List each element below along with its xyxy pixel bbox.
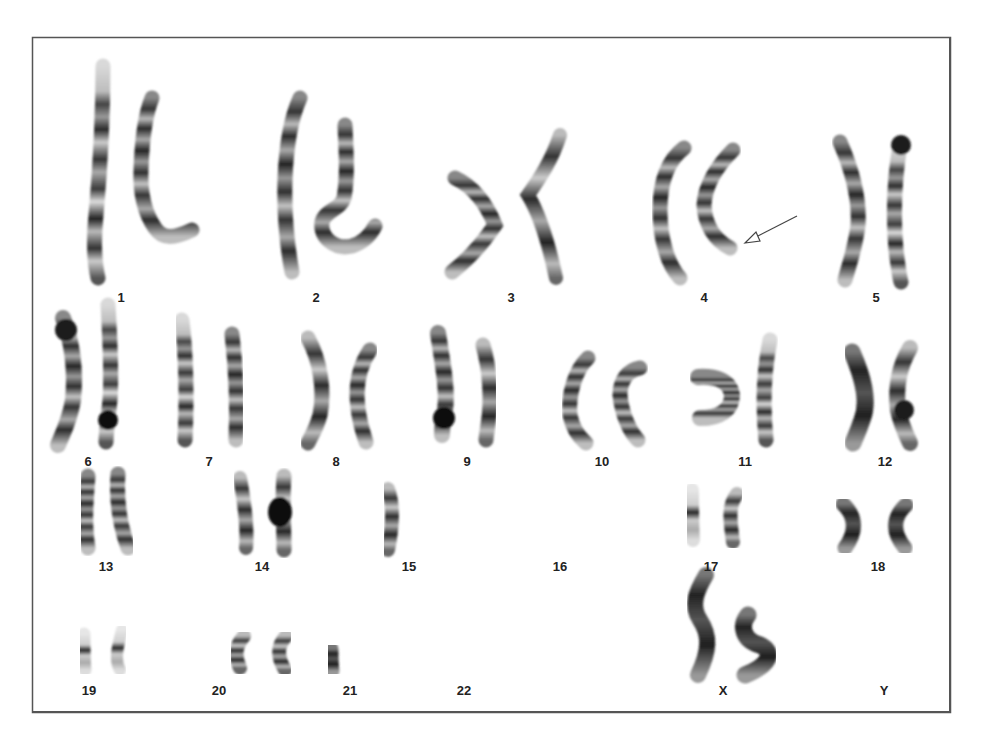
chromosome-pair-9 [433, 333, 490, 440]
chromosome-pair-10 [570, 358, 640, 443]
chromosome-pair-14 [240, 476, 292, 550]
label-chr-x: X [719, 683, 728, 698]
label-chr-7: 7 [205, 454, 212, 469]
chromosome-pair-x [695, 575, 768, 675]
chromosome-pair-4 [660, 148, 733, 278]
label-chr-20: 20 [212, 683, 226, 698]
chromosome-pair-6 [55, 305, 118, 445]
label-chr-18: 18 [871, 559, 885, 574]
label-chr-19: 19 [82, 683, 96, 698]
chromosome-pair-11 [698, 340, 770, 440]
label-chr-1: 1 [117, 290, 124, 305]
label-chr-16: 16 [553, 559, 567, 574]
chromosome-pair-2 [285, 98, 375, 272]
label-chr-10: 10 [595, 454, 609, 469]
chromosome-pair-13 [86, 474, 128, 548]
chromosome-pair-19 [84, 630, 122, 670]
chromosome-pair-8 [308, 338, 370, 443]
chromosome-pair-3 [452, 135, 560, 278]
chromosome-pair-22 [451, 638, 478, 672]
chromosome-pair-17 [692, 490, 737, 542]
label-chr-5: 5 [872, 290, 879, 305]
label-chr-9: 9 [463, 454, 470, 469]
chromosome-pair-18 [843, 504, 906, 548]
chromosome-pair-12 [852, 348, 914, 443]
chromosome-pair-21 [331, 648, 358, 671]
label-chr-2: 2 [312, 290, 319, 305]
label-chr-13: 13 [99, 559, 113, 574]
label-chr-11: 11 [738, 454, 752, 469]
chromosome-pair-7 [182, 320, 237, 440]
karyotype-canvas [0, 0, 981, 747]
label-chr-14: 14 [255, 559, 269, 574]
label-chr-22: 22 [457, 683, 471, 698]
annotation-arrow [745, 216, 797, 243]
label-chr-3: 3 [507, 290, 514, 305]
label-chr-y: Y [880, 683, 889, 698]
label-chr-21: 21 [343, 683, 357, 698]
label-chr-12: 12 [878, 454, 892, 469]
chromosome-pair-20 [237, 636, 286, 670]
label-chr-15: 15 [402, 559, 416, 574]
label-chr-6: 6 [84, 454, 91, 469]
label-chr-4: 4 [700, 290, 707, 305]
label-chr-17: 17 [704, 559, 718, 574]
chromosome-pair-1 [95, 66, 192, 278]
chromosome-pair-5 [840, 135, 911, 282]
chromosome-pair-16 [542, 484, 578, 548]
label-chr-8: 8 [332, 454, 339, 469]
chromosome-pair-15 [388, 478, 428, 552]
